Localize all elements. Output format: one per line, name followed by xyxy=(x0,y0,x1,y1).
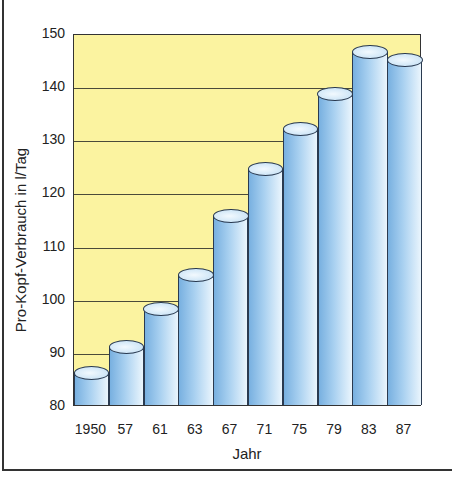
bar-87 xyxy=(387,60,422,405)
bar-83 xyxy=(352,52,387,405)
bar-cap xyxy=(352,45,388,59)
bar-63 xyxy=(178,275,213,405)
bar-cap xyxy=(109,340,145,354)
y-tick-label: 110 xyxy=(25,238,65,254)
bar-cap xyxy=(248,162,284,176)
x-axis-label: Jahr xyxy=(232,445,261,462)
bar-61 xyxy=(144,309,179,405)
bar-cap xyxy=(283,122,319,136)
bar-71 xyxy=(248,169,283,405)
bar-cap xyxy=(178,268,214,282)
bar-79 xyxy=(318,94,353,405)
plot-area xyxy=(73,34,421,406)
y-tick-label: 150 xyxy=(25,25,65,41)
bar-cap xyxy=(213,209,249,223)
y-tick-label: 130 xyxy=(25,131,65,147)
bar-75 xyxy=(283,129,318,405)
y-tick-label: 100 xyxy=(25,291,65,307)
bar-cap xyxy=(74,366,110,380)
y-tick-label: 90 xyxy=(25,344,65,360)
bar-57 xyxy=(109,347,144,405)
bar-1950 xyxy=(74,373,109,405)
bar-cap xyxy=(387,53,423,67)
bar-67 xyxy=(213,216,248,405)
y-tick-label: 140 xyxy=(25,78,65,94)
bar-cap xyxy=(317,87,353,101)
y-tick-label: 80 xyxy=(25,397,65,413)
bar-cap xyxy=(143,302,179,316)
y-tick-label: 120 xyxy=(25,184,65,200)
x-tick-label: 87 xyxy=(384,421,424,437)
